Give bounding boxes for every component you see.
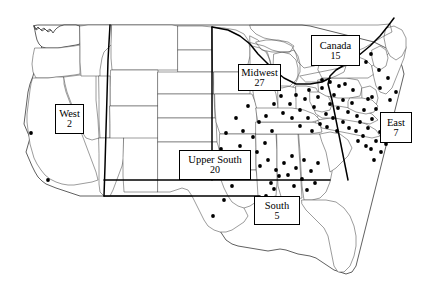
- data-point: [328, 80, 332, 84]
- data-point: [303, 97, 307, 101]
- missouri-state: [215, 94, 258, 134]
- data-point: [370, 117, 374, 121]
- data-point: [272, 187, 276, 191]
- data-point: [362, 108, 366, 112]
- data-point: [286, 173, 290, 177]
- data-point: [46, 178, 50, 182]
- data-point: [331, 116, 335, 120]
- region-label-east[interactable]: East 7: [380, 112, 412, 143]
- data-point: [310, 129, 314, 133]
- data-point: [307, 88, 311, 92]
- data-point: [351, 88, 355, 92]
- data-point: [366, 126, 370, 130]
- data-point: [309, 169, 313, 173]
- region-label-midwest[interactable]: Midwest 27: [238, 64, 281, 91]
- data-point: [266, 158, 270, 162]
- utah-state: [99, 76, 110, 138]
- data-point: [355, 114, 359, 118]
- colorado-state: [110, 106, 158, 142]
- data-point: [264, 114, 268, 118]
- data-point: [263, 141, 267, 145]
- florida-state: [302, 200, 356, 272]
- montana-state: [111, 25, 178, 70]
- data-point: [354, 129, 358, 133]
- data-point: [211, 214, 215, 218]
- data-point: [341, 120, 345, 124]
- data-point: [312, 105, 316, 109]
- map-canvas: [0, 0, 426, 292]
- data-point: [234, 116, 238, 120]
- data-point: [294, 166, 298, 170]
- washington-state: [34, 25, 80, 48]
- data-point: [238, 144, 242, 148]
- thematic-point-map: West 2 Midwest 27 Canada 15 East 7 Upper…: [0, 0, 426, 292]
- data-point: [350, 101, 354, 105]
- region-label-upper-south[interactable]: Upper South 20: [179, 150, 251, 180]
- kansas-state: [158, 94, 215, 118]
- data-point: [343, 82, 347, 86]
- data-point: [279, 94, 283, 98]
- data-point: [281, 111, 285, 115]
- data-point: [29, 131, 33, 135]
- data-point: [347, 126, 351, 130]
- data-point: [346, 110, 350, 114]
- data-point: [313, 181, 317, 185]
- data-point: [224, 131, 228, 135]
- data-point: [277, 174, 281, 178]
- data-point: [378, 86, 382, 90]
- data-point: [298, 124, 302, 128]
- wyoming-state: [110, 70, 158, 106]
- region-label-canada[interactable]: Canada 15: [311, 35, 360, 66]
- region-label-midwest-count: 27: [255, 78, 265, 89]
- data-point: [305, 188, 309, 192]
- data-point: [246, 104, 250, 108]
- data-point: [241, 129, 245, 133]
- data-point: [258, 164, 262, 168]
- data-point: [222, 198, 226, 202]
- arizona-state: [99, 138, 124, 196]
- alabama-state: [277, 134, 302, 200]
- data-point: [230, 184, 234, 188]
- data-point: [320, 86, 324, 90]
- oregon-state: [32, 45, 80, 78]
- region-label-upper-south-count: 20: [210, 165, 220, 176]
- data-point: [377, 68, 381, 72]
- data-point: [364, 60, 368, 64]
- data-point: [356, 139, 360, 143]
- data-point: [369, 147, 373, 151]
- data-point: [332, 93, 336, 97]
- data-point: [306, 116, 310, 120]
- data-point: [369, 52, 373, 56]
- data-point: [255, 150, 259, 154]
- data-point: [316, 95, 320, 99]
- data-point: [372, 158, 376, 162]
- new-mexico-state: [123, 138, 158, 192]
- data-point: [288, 102, 292, 106]
- data-point: [336, 106, 340, 110]
- data-point: [318, 122, 322, 126]
- region-label-west[interactable]: West 2: [55, 104, 84, 134]
- data-point: [358, 120, 362, 124]
- nebraska-state: [158, 72, 214, 94]
- data-point: [274, 168, 278, 172]
- data-point: [394, 90, 398, 94]
- data-point: [316, 161, 320, 165]
- data-point: [272, 102, 276, 106]
- data-point: [379, 150, 383, 154]
- data-point: [364, 144, 368, 148]
- data-point: [251, 135, 255, 139]
- data-point: [320, 78, 324, 82]
- data-point: [269, 181, 273, 185]
- data-point: [335, 129, 339, 133]
- data-point: [337, 84, 341, 88]
- data-point: [294, 93, 298, 97]
- data-point: [328, 102, 332, 106]
- data-point: [374, 139, 378, 143]
- data-point: [374, 107, 378, 111]
- region-label-south[interactable]: South 5: [254, 196, 300, 225]
- oklahoma-state: [158, 118, 217, 142]
- data-point: [388, 98, 392, 102]
- data-point: [290, 116, 294, 120]
- region-label-canada-count: 15: [331, 51, 341, 62]
- data-point: [370, 95, 374, 99]
